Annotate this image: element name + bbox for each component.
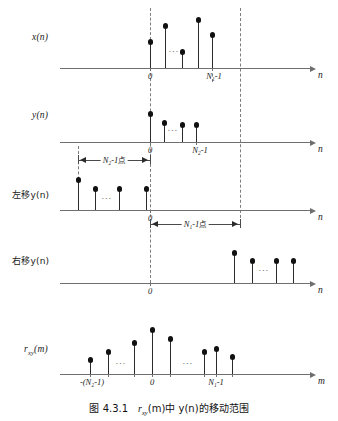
dimension-label-n2: N₂-1点: [101, 154, 128, 165]
stem: [78, 180, 79, 210]
stem: [198, 20, 199, 68]
stem-dot: [144, 186, 150, 192]
stem: [204, 352, 205, 374]
stem-dot: [230, 354, 236, 360]
axis-label-n-yn: n: [318, 144, 323, 154]
tick-label-zero-rxy: 0: [150, 377, 154, 387]
stem: [212, 35, 213, 68]
axis-arrow-rxy: [310, 372, 316, 378]
axis-line-yn: [60, 142, 312, 143]
stem-dot: [232, 250, 238, 256]
stem-dot: [132, 340, 138, 346]
signal-label-left-shift: 左移y(n): [12, 188, 49, 201]
stem-dot: [93, 186, 99, 192]
stem: [293, 261, 294, 283]
stem-dot: [148, 39, 154, 45]
tick-label-n1-rxy: N₁-1: [208, 377, 224, 387]
stem-dot: [210, 32, 216, 38]
panel-yn: y(n) n ... 0 N₂-1: [0, 90, 338, 165]
tick-label-n2-yn: N₂-1: [192, 145, 208, 155]
stem: [276, 261, 277, 283]
axis-tick: [204, 374, 205, 377]
dimension-arrow-left: [80, 157, 86, 163]
tick-label-n1-xn: N₁-1: [206, 71, 222, 81]
stem-dot: [162, 120, 168, 126]
stem-dot: [163, 23, 169, 29]
stem-ellipsis-right-shift: ...: [259, 263, 269, 273]
tick-label-neg-n2-rxy: -(N₂-1): [80, 377, 104, 387]
stem-ellipsis-left-shift: ...: [102, 191, 112, 201]
axis-tick: [170, 374, 171, 377]
stem-ellipsis-yn: ...: [168, 123, 178, 133]
caption-number: 图 4.3.1: [89, 403, 128, 414]
stem-dot: [291, 258, 297, 264]
stem-dot: [202, 349, 208, 355]
stem-dot: [76, 177, 82, 183]
figure-caption: 图 4.3.1rxy(m)中 y(n)的移动范围: [0, 400, 338, 416]
stem-dot: [250, 258, 256, 264]
tick-label-zero-right-shift: 0: [148, 286, 152, 296]
stem-dot: [180, 122, 186, 128]
stem-dot: [106, 349, 112, 355]
axis-arrow-xn: [310, 66, 316, 72]
signal-label-rxy: rxy(m): [24, 344, 48, 356]
axis-label-n-left-shift: n: [318, 212, 323, 222]
stem: [165, 26, 166, 68]
dimension-cap-right: [240, 219, 241, 228]
stem-dot: [214, 346, 220, 352]
panel-xn: x(n) n ... 0 N₁-1: [0, 0, 338, 90]
axis-tick: [108, 374, 109, 377]
axis-label-n-xn: n: [318, 70, 323, 80]
signal-label-yn: y(n): [32, 110, 48, 120]
stem-dot: [150, 327, 156, 333]
signal-label-right-shift: 右移y(n): [12, 254, 49, 267]
stem: [150, 114, 151, 142]
stem-ellipsis-xn: ...: [169, 44, 179, 54]
stem-dot: [196, 17, 202, 23]
dimension-label-n1: N₁-1点: [182, 218, 209, 229]
axis-line-xn: [60, 68, 312, 69]
stem: [164, 123, 165, 142]
axis-label-n-right-shift: n: [318, 285, 323, 295]
stem-ellipsis-rxy-left: ...: [116, 356, 126, 366]
stem-dot: [194, 122, 200, 128]
tick-label-zero-yn: 0: [148, 145, 152, 155]
stem-dot: [148, 111, 154, 117]
stem: [252, 261, 253, 283]
stem-dot: [168, 336, 174, 342]
stem: [119, 189, 120, 210]
axis-line-rxy: [60, 374, 312, 375]
figure-container: x(n) n ... 0 N₁-1 y(n) n ...: [0, 0, 338, 421]
axis-arrow-yn: [310, 140, 316, 146]
dimension-arrow-right: [232, 221, 238, 227]
stem: [152, 330, 153, 374]
stem-dot: [117, 186, 123, 192]
stem: [234, 253, 235, 283]
stem: [146, 189, 147, 210]
caption-tail: (m)中 y(n)的移动范围: [148, 403, 249, 414]
signal-label-xn: x(n): [32, 32, 48, 42]
panel-left-shift: 左移y(n) n ... 0: [0, 165, 338, 225]
axis-line-left-shift: [60, 210, 312, 211]
stem: [150, 42, 151, 68]
axis-arrow-left-shift: [310, 208, 316, 214]
axis-tick: [232, 374, 233, 377]
stem: [170, 339, 171, 374]
axis-arrow-right-shift: [310, 281, 316, 287]
stem-dot: [180, 49, 186, 55]
axis-label-m-rxy: m: [318, 376, 325, 386]
stem-dot: [274, 258, 280, 264]
axis-tick: [134, 374, 135, 377]
axis-line-right-shift: [60, 283, 312, 284]
stem: [95, 189, 96, 210]
dimension-arrow-left: [152, 221, 158, 227]
stem-ellipsis-rxy-right: ...: [183, 356, 193, 366]
stem-dot: [88, 357, 94, 363]
stem: [108, 352, 109, 374]
panel-rxy: rxy(m) m ... ... -(N₂-1) 0 N₁-1: [0, 316, 338, 396]
stem: [216, 349, 217, 374]
dimension-arrow-right: [142, 157, 148, 163]
stem: [134, 343, 135, 374]
panel-right-shift: 右移y(n) n ... 0: [0, 232, 338, 302]
tick-label-zero-xn: 0: [148, 71, 152, 81]
